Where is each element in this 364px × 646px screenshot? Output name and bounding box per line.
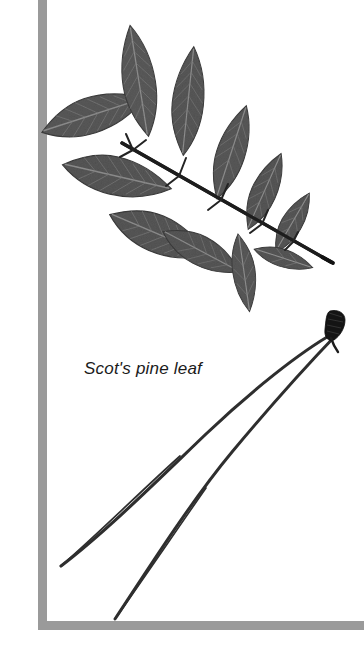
- gray-vertical-rule: [38, 0, 47, 630]
- gray-horizontal-rule: [38, 621, 364, 630]
- botanical-figure: Scot's pine leaf: [0, 0, 364, 646]
- specimen-illustration: [0, 0, 364, 646]
